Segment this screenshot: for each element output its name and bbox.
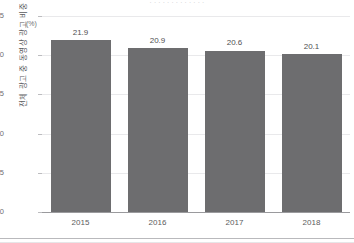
x-category-label-2017: 2017 [205, 218, 265, 228]
bar-value-label-2016: 20.9 [128, 36, 188, 45]
y-tick-mark-10 [38, 134, 42, 135]
y-axis-title: 전체 광고 중 동영상 광고 비중 [17, 0, 31, 135]
y-tick-label-25: 25 [0, 12, 4, 20]
y-tick-mark-25 [38, 16, 42, 17]
bar-value-label-2018: 20.1 [282, 42, 342, 51]
y-tick-label-15: 15 [0, 90, 4, 98]
x-category-label-2016: 2016 [128, 218, 188, 228]
y-tick-mark-5 [38, 173, 42, 174]
gridline-25 [42, 16, 350, 17]
y-tick-mark-15 [38, 94, 42, 95]
clipped-caption-text: · · · · · · · · · · · · · [0, 0, 354, 6]
y-tick-label-0: 0 [0, 208, 4, 216]
y-tick-mark-20 [38, 55, 42, 56]
x-category-label-2018: 2018 [282, 218, 342, 228]
bar-2017[interactable] [205, 51, 265, 213]
bar-value-label-2017: 20.6 [205, 38, 265, 47]
plot-area: 0510152025 21.920.920.620.1 [42, 16, 350, 212]
y-tick-label-20: 20 [0, 51, 4, 59]
x-category-label-2015: 2015 [51, 218, 111, 228]
bar-2015[interactable] [51, 40, 111, 212]
bar-value-label-2015: 21.9 [51, 28, 111, 37]
y-tick-mark-0 [38, 212, 42, 213]
bar-2018[interactable] [282, 54, 342, 212]
page-rule [0, 238, 354, 239]
bar-chart-figure: · · · · · · · · · · · · · (%) 전체 광고 중 동영… [0, 0, 354, 243]
bar-2016[interactable] [128, 48, 188, 212]
y-tick-label-10: 10 [0, 130, 4, 138]
gridline-0 [42, 212, 350, 213]
y-tick-label-5: 5 [0, 169, 4, 177]
